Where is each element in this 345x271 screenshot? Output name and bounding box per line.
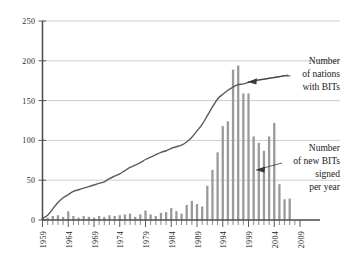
bar xyxy=(160,213,162,220)
x-tick-label: 1969 xyxy=(91,231,100,248)
new-bits-annotation-line-3: signed xyxy=(315,169,340,179)
bar xyxy=(175,211,177,220)
x-tick-label: 1994 xyxy=(219,231,228,248)
bar xyxy=(186,205,188,220)
x-tick-label: 1999 xyxy=(245,231,254,248)
bar xyxy=(278,184,280,220)
x-tick-label: 1979 xyxy=(142,231,151,248)
bar xyxy=(129,214,131,220)
bar xyxy=(191,201,193,220)
bar xyxy=(165,212,167,220)
chart-container: 050100150200250 195919641969197419791984… xyxy=(0,0,345,271)
bar xyxy=(170,208,172,220)
new-bits-annotation-line-4: per year xyxy=(309,182,341,192)
bar xyxy=(273,123,275,220)
nations-annotation-line-3: with BITs xyxy=(302,82,340,92)
new-bits-annotation-line-2: of new BITs xyxy=(293,156,340,166)
chart-background xyxy=(0,0,345,271)
x-tick-label: 1984 xyxy=(168,231,177,248)
bit-treaties-chart: 050100150200250 195919641969197419791984… xyxy=(0,0,345,271)
y-tick-label: 50 xyxy=(27,176,36,185)
bar xyxy=(216,152,218,220)
bar xyxy=(283,199,285,220)
bar xyxy=(258,143,260,220)
nations-annotation-line-1: Number xyxy=(309,56,341,66)
new-bits-annotation-line-1: Number xyxy=(309,143,341,153)
bar xyxy=(124,214,126,220)
bar xyxy=(206,186,208,220)
bar xyxy=(196,204,198,220)
bar xyxy=(227,121,229,220)
bar xyxy=(201,206,203,220)
x-tick-label: 1974 xyxy=(116,231,125,248)
bar xyxy=(211,170,213,220)
bar xyxy=(232,70,234,220)
x-tick-label: 1959 xyxy=(39,231,48,248)
bar xyxy=(268,136,270,220)
bar xyxy=(289,199,291,220)
y-tick-label: 250 xyxy=(22,17,35,26)
x-tick-label: 2009 xyxy=(297,231,306,248)
x-tick-label: 1964 xyxy=(65,231,74,248)
bar xyxy=(263,151,265,220)
bar xyxy=(222,126,224,220)
bar xyxy=(150,214,152,220)
bar xyxy=(144,210,146,220)
x-tick-label: 1989 xyxy=(194,231,203,248)
y-tick-label: 0 xyxy=(31,216,35,225)
bar xyxy=(242,93,244,220)
y-tick-label: 200 xyxy=(22,57,35,66)
bar xyxy=(139,214,141,220)
bar xyxy=(67,211,69,220)
x-tick-label: 2004 xyxy=(271,231,280,248)
y-tick-label: 150 xyxy=(22,97,35,106)
bar xyxy=(180,214,182,220)
y-tick-label: 100 xyxy=(22,136,35,145)
bar xyxy=(253,136,255,220)
bar xyxy=(237,66,239,220)
nations-annotation-line-2: of nations xyxy=(302,69,340,79)
bar xyxy=(247,93,249,220)
